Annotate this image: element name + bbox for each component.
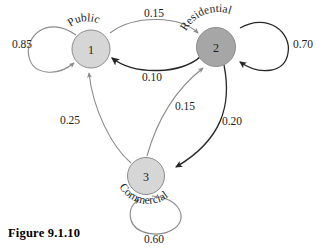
edge-public-to-public <box>28 27 76 72</box>
edge-path-residential-commercial <box>176 65 226 167</box>
edge-path-commercial-public <box>89 73 131 163</box>
edge-label-commercial-public: 0.25 <box>60 114 80 126</box>
edge-path-residential-self <box>240 22 288 70</box>
state-transition-diagram: 1 2 3 Public Residential Commercial 0.85… <box>0 0 320 248</box>
node-commercial-number: 3 <box>143 170 149 184</box>
edge-label-public-residential: 0.15 <box>144 7 164 19</box>
edge-label-residential-self: 0.70 <box>293 38 313 50</box>
edge-residential-to-residential <box>240 22 288 70</box>
edge-residential-to-commercial <box>176 65 226 167</box>
edge-label-commercial-residential: 0.15 <box>175 100 195 112</box>
edge-path-residential-public <box>112 56 201 71</box>
edge-path-public-self <box>28 27 76 72</box>
node-residential-label: Residential <box>177 2 233 33</box>
edge-label-residential-public: 0.10 <box>142 71 162 83</box>
edge-label-public-self: 0.85 <box>12 38 32 50</box>
node-public[interactable]: 1 <box>72 30 110 68</box>
edge-label-commercial-self: 0.60 <box>144 233 164 245</box>
figure-container: 1 2 3 Public Residential Commercial 0.85… <box>0 0 320 248</box>
figure-caption: Figure 9.1.10 <box>8 226 80 241</box>
edge-label-residential-commercial: 0.20 <box>222 115 242 127</box>
edge-commercial-to-public <box>89 73 131 163</box>
edge-residential-to-public <box>112 56 201 71</box>
node-public-number: 1 <box>88 43 94 57</box>
node-residential[interactable]: 2 <box>197 28 236 67</box>
node-public-label: Public <box>65 11 101 28</box>
node-residential-number: 2 <box>213 41 219 55</box>
